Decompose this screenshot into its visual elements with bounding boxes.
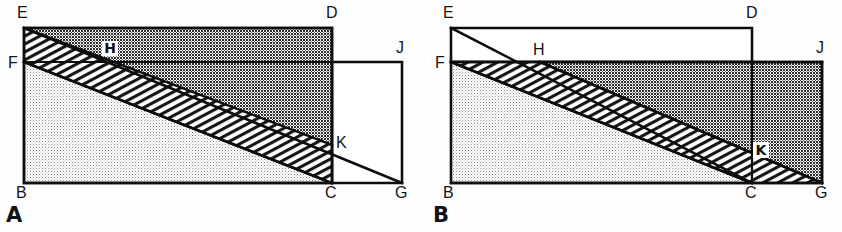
panel-b: E D F J H K B C G B: [433, 4, 827, 227]
panel-b-vertex-label-G: G: [815, 184, 827, 201]
figure-container: E D F J H K B C G A: [0, 0, 842, 232]
panel-a-vertex-label-F: F: [8, 54, 18, 71]
panel-b-vertex-label-C: C: [745, 184, 757, 201]
panel-b-tag: B: [433, 203, 449, 227]
panel-a-vertex-label-B: B: [16, 184, 27, 201]
panel-a-vertex-label-C: C: [325, 184, 337, 201]
panel-a-vertex-label-E: E: [17, 4, 28, 21]
panel-a: E D F J H K B C G A: [6, 4, 407, 227]
panel-b-vertex-label-D: D: [746, 4, 758, 21]
panel-b-vertex-label-K: K: [756, 142, 768, 158]
geometry-figure: E D F J H K B C G A: [0, 0, 842, 232]
panel-b-vertex-label-F: F: [435, 54, 445, 71]
panel-b-vertex-label-H: H: [533, 41, 545, 58]
panel-a-vertex-label-K: K: [336, 134, 347, 151]
panel-a-tag: A: [6, 203, 23, 227]
panel-b-plain-white-region: [451, 28, 752, 62]
panel-a-vertex-label-J: J: [396, 39, 404, 56]
panel-b-vertex-label-B: B: [443, 184, 454, 201]
panel-a-plain-white-region: [332, 62, 402, 183]
panel-b-vertex-label-J: J: [816, 39, 824, 56]
panel-a-vertex-label-H: H: [104, 40, 116, 56]
panel-b-vertex-label-E: E: [443, 4, 454, 21]
panel-a-vertex-label-G: G: [395, 184, 407, 201]
panel-a-vertex-label-D: D: [326, 4, 338, 21]
